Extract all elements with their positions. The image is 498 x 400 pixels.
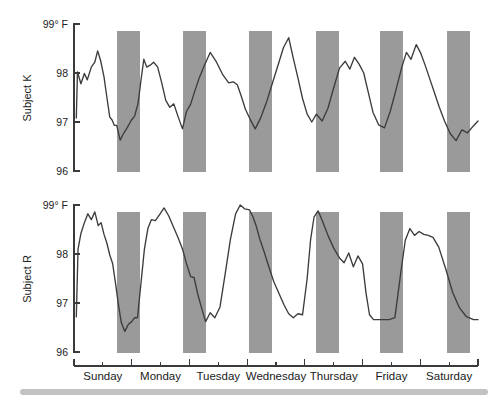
x-axis-day-label: Saturday (426, 370, 472, 382)
night-band (447, 212, 470, 353)
x-axis-day-label: Tuesday (196, 370, 240, 382)
y-tick-label-98-k: 98 (56, 67, 68, 79)
panel-subject-r: 99° F 98 97 96 Subject R (21, 199, 478, 358)
x-axis: SundayMondayTuesdayWednesdayThursdayFrid… (74, 359, 478, 382)
x-axis-day-label: Monday (140, 370, 181, 382)
y-tick-label-99-r: 99° F (43, 199, 68, 211)
y-tick-label-97-r: 97 (56, 297, 68, 309)
night-band (249, 212, 272, 353)
night-band (316, 31, 339, 172)
x-axis-day-label: Thursday (310, 370, 358, 382)
y-tick-label-98-r: 98 (56, 248, 68, 260)
x-axis-day-label: Wednesday (246, 370, 307, 382)
night-band (117, 31, 140, 172)
y-tick-label-97-k: 97 (56, 116, 68, 128)
x-axis-day-labels: SundayMondayTuesdayWednesdayThursdayFrid… (83, 370, 472, 382)
y-tick-label-96-k: 96 (56, 165, 68, 177)
night-band (183, 31, 206, 172)
y-tick-label-99-k: 99° F (43, 18, 68, 30)
y-tick-label-96-r: 96 (56, 346, 68, 358)
x-axis-day-label: Friday (375, 370, 407, 382)
axis-title-subject-k: Subject K (21, 74, 33, 122)
axis-title-subject-r: Subject R (21, 255, 33, 303)
chart-svg: 99° F 98 97 96 Subject K 99° F 98 97 (0, 0, 498, 400)
night-band (117, 212, 140, 353)
page-edge-strip (20, 389, 488, 395)
x-axis-day-label: Sunday (83, 370, 122, 382)
night-band (380, 31, 403, 172)
night-band (249, 31, 272, 172)
x-axis-ticks (74, 359, 478, 366)
night-band (447, 31, 470, 172)
temperature-chart-figure: 99° F 98 97 96 Subject K 99° F 98 97 (0, 0, 498, 400)
panel-subject-k: 99° F 98 97 96 Subject K (21, 18, 478, 177)
night-bands-subject-k (117, 31, 470, 172)
